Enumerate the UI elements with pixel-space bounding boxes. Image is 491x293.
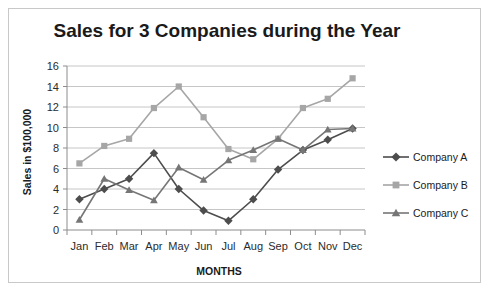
y-tick-label: 10 [47,122,59,134]
data-point-square [200,114,206,120]
data-point-square [349,75,355,81]
y-axis-title: Sales in $100,000 [21,109,33,196]
y-tick-label: 2 [53,204,59,216]
data-point-diamond [75,195,83,203]
data-point-square [225,146,231,152]
chart-legend: Company ACompany BCompany C [383,151,469,219]
data-point-diamond [391,152,400,161]
x-tick-label: Mar [120,240,139,252]
x-tick-label: May [168,240,189,252]
data-point-triangle [76,216,84,223]
y-tick-label: 14 [47,81,59,93]
data-point-square [300,105,306,111]
data-point-square [101,143,107,149]
data-series-layer [75,75,357,225]
legend-label: Company C [413,207,469,219]
data-point-square [250,156,256,162]
x-axis-tick-labels: JanFebMarAprMayJunJulAugSepOctNovDec [71,240,363,252]
y-tick-label: 16 [47,60,59,72]
x-tick-label: Jan [71,240,89,252]
x-tick-label: Sep [268,240,288,252]
x-tick-label: Aug [243,240,263,252]
x-tick-label: Nov [318,240,338,252]
series-company-c [76,125,357,223]
legend-item-company-c[interactable]: Company C [383,207,469,219]
data-point-triangle [100,175,108,182]
y-tick-label: 12 [47,101,59,113]
data-point-square [126,136,132,142]
y-tick-label: 6 [53,163,59,175]
y-tick-label: 0 [53,224,59,236]
legend-label: Company A [413,151,467,163]
data-point-square [325,96,331,102]
data-point-triangle [175,164,183,171]
series-company-b [76,75,355,166]
line-chart: Sales for 3 Companies during the Year Sa… [9,9,482,284]
data-point-square [393,182,400,189]
gridlines [63,66,365,230]
x-tick-label: Apr [145,240,162,252]
x-axis-title: MONTHS [196,265,242,277]
x-tick-label: Feb [95,240,114,252]
data-point-diamond [324,136,332,144]
legend-label: Company B [413,179,468,191]
data-point-square [76,160,82,166]
x-tick-label: Jun [195,240,213,252]
series-line [79,129,352,220]
chart-title: Sales for 3 Companies during the Year [53,20,401,41]
x-tick-label: Jul [221,240,235,252]
x-tick-label: Oct [294,240,311,252]
data-point-square [176,83,182,89]
y-tick-label: 4 [53,183,59,195]
x-axis-tickmarks [67,230,365,235]
y-tick-label: 8 [53,142,59,154]
legend-item-company-a[interactable]: Company A [383,151,467,163]
chart-container: Sales for 3 Companies during the Year Sa… [8,8,481,283]
legend-item-company-b[interactable]: Company B [383,179,468,191]
y-axis-tick-labels: 0246810121416 [47,60,59,236]
series-line [79,78,352,163]
data-point-square [151,105,157,111]
x-tick-label: Dec [343,240,363,252]
data-point-diamond [100,185,108,193]
